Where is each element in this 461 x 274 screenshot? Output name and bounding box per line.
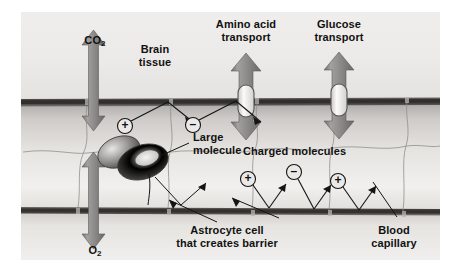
blood-brain-barrier-figure: CO2 Brain tissue Amino acid transport Gl…: [0, 0, 461, 274]
label-co2-subscript: 2: [101, 39, 106, 48]
label-o2-text: O: [88, 244, 97, 256]
label-blood-capillary-line1: Blood: [359, 224, 429, 237]
label-charged-molecules: Charged molecules: [243, 145, 346, 158]
charge-symbol-plus-upper: +: [117, 119, 133, 132]
label-large-molecule-line2: molecule: [193, 144, 242, 157]
label-astrocyte-cell: Astrocyte cell that creates barrier: [165, 224, 289, 250]
label-blood-capillary-line2: capillary: [359, 237, 429, 250]
label-large-molecule: Large molecule: [193, 131, 242, 157]
label-o2-subscript: 2: [97, 249, 102, 258]
label-blood-capillary: Blood capillary: [359, 224, 429, 250]
charge-symbol-minus-lower: –: [286, 165, 302, 178]
label-glucose-line2: transport: [293, 31, 385, 44]
charge-symbol-plus-lower-1: +: [240, 172, 256, 185]
charge-symbol-minus-upper: –: [185, 118, 201, 131]
label-astrocyte-line2: that creates barrier: [165, 237, 289, 250]
label-amino-acid-line1: Amino acid: [194, 18, 298, 31]
charge-symbol-plus-lower-2: +: [330, 174, 346, 187]
label-large-molecule-line1: Large: [193, 131, 242, 144]
glucose-transporter-capsule: [331, 84, 347, 116]
label-astrocyte-line1: Astrocyte cell: [165, 224, 289, 237]
upper-membrane: [21, 98, 440, 107]
label-amino-acid-transport: Amino acid transport: [194, 18, 298, 44]
label-brain-tissue: Brain tissue: [127, 43, 183, 69]
amino-acid-transporter-capsule: [238, 85, 254, 117]
label-amino-acid-line2: transport: [194, 31, 298, 44]
label-co2: CO2: [73, 34, 117, 48]
label-brain-tissue-line2: tissue: [127, 56, 183, 69]
label-co2-text: CO: [84, 34, 101, 46]
label-o2: O2: [73, 244, 117, 258]
label-glucose-line1: Glucose: [293, 18, 385, 31]
illustration-frame: CO2 Brain tissue Amino acid transport Gl…: [21, 12, 440, 260]
label-brain-tissue-line1: Brain: [127, 43, 183, 56]
label-glucose-transport: Glucose transport: [293, 18, 385, 44]
